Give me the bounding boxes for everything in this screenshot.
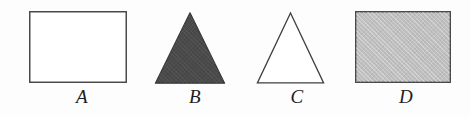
triangle-b-body	[155, 13, 224, 83]
shape-d-rectangle	[355, 11, 451, 83]
shape-d-label: D	[349, 86, 463, 108]
shape-b-triangle	[154, 12, 226, 84]
triangle-c-body	[257, 13, 323, 83]
shape-c-label: C	[245, 86, 349, 108]
shape-item-d: D	[349, 0, 463, 116]
rect-d-body	[356, 12, 451, 83]
rect-a-body	[30, 12, 127, 83]
shape-item-c: C	[245, 0, 349, 116]
shape-c-triangle	[256, 12, 325, 84]
shapes-figure: A B C D	[0, 0, 470, 116]
shape-b-label: B	[140, 86, 250, 108]
shape-a-rectangle	[29, 11, 127, 83]
shape-item-b: B	[140, 0, 250, 116]
